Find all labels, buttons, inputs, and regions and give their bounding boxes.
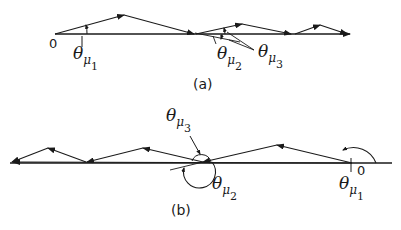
- panel-b-diagram: [10, 136, 392, 188]
- panel-b-caption: (b): [171, 203, 191, 217]
- panel-b-theta1-arc: [343, 148, 376, 163]
- mu-subscript: μ: [349, 183, 357, 197]
- panel-a-step-vector: [295, 25, 320, 34]
- panel-b-step-vector: [48, 148, 86, 162]
- panel-b-step-vector: [87, 148, 143, 162]
- panel-a-theta3-arc: [224, 28, 225, 34]
- panel-a-diagram: [55, 15, 350, 50]
- panel-a-step-vector: [196, 24, 242, 34]
- theta-symbol: θ: [339, 173, 349, 193]
- panel-a-theta2-label: θμ2: [217, 45, 242, 72]
- panel-a-theta1-label: θμ1: [73, 45, 98, 72]
- theta-symbol: θ: [166, 105, 176, 125]
- panel-a-step-vector: [124, 15, 194, 34]
- panel-b-step-vector: [143, 148, 203, 162]
- panel-a-theta3-label: θμ3: [258, 43, 283, 70]
- mu-subscript: μ: [176, 115, 184, 129]
- theta-symbol: θ: [73, 43, 83, 63]
- panel-b-step-vector: [277, 145, 352, 163]
- index-subscript: 3: [276, 58, 283, 71]
- index-subscript: 2: [230, 190, 237, 203]
- mu-subscript: μ: [222, 183, 230, 197]
- panel-a-step-vector: [242, 24, 291, 34]
- panel-a-caption: (a): [193, 77, 213, 91]
- panel-b-theta3-pointer: [190, 136, 200, 154]
- mu-subscript: μ: [83, 53, 91, 67]
- index-subscript: 3: [184, 122, 191, 135]
- panel-a-step-vector: [55, 15, 124, 34]
- panel-b-theta2-label: θμ2: [212, 175, 237, 202]
- theta-symbol: θ: [217, 43, 227, 63]
- panel-a-step-vector: [320, 25, 347, 34]
- diagram-canvas: 0 θμ1 θμ2 θμ3 (a) θμ3 θμ2 0 θμ1 (b): [0, 0, 401, 230]
- index-subscript: 1: [91, 60, 98, 73]
- panel-b-theta3-label: θμ3: [166, 107, 191, 134]
- theta-symbol: θ: [258, 41, 268, 61]
- index-subscript: 1: [357, 190, 364, 203]
- theta-symbol: θ: [212, 173, 222, 193]
- panel-a-origin-label: 0: [49, 37, 57, 50]
- panel-b-theta1-label: θμ1: [339, 175, 364, 202]
- index-subscript: 2: [235, 60, 242, 73]
- mu-subscript: μ: [227, 53, 235, 67]
- mu-subscript: μ: [268, 51, 276, 65]
- panel-b-step-vector: [12, 148, 48, 162]
- panel-a-theta1-arc: [86, 25, 87, 34]
- panel-b-step-vector: [203, 145, 277, 162]
